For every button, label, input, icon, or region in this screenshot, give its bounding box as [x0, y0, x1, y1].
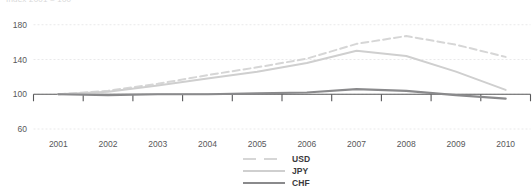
x-axis-tick-label: 2006: [297, 139, 316, 149]
x-axis-tick-label: 2001: [49, 139, 68, 149]
legend-label: JPY: [292, 166, 308, 176]
y-axis-tick-label: 140: [13, 55, 27, 65]
y-axis-tick-labels: 60100140180: [13, 20, 27, 134]
y-axis-tick-label: 60: [18, 124, 28, 134]
y-axis-tick-label: 100: [13, 89, 27, 99]
x-axis-tick-label: 2007: [347, 139, 366, 149]
legend-label: USD: [292, 154, 310, 164]
legend-item-usd[interactable]: USD: [243, 154, 310, 164]
x-axis-tick-label: 2003: [148, 139, 167, 149]
legend-item-chf[interactable]: CHF: [243, 178, 310, 188]
x-axis-tick-label: 2010: [496, 139, 515, 149]
x-axis-tick-label: 2002: [99, 139, 118, 149]
y-axis-tick-label: 180: [13, 20, 27, 30]
gridlines: [34, 25, 531, 129]
chart-legend: USDJPYCHF: [243, 154, 310, 188]
x-axis-tick-labels: 2001200220032004200520062007200820092010: [49, 139, 515, 149]
legend-swatch-jpy: [243, 166, 285, 176]
x-axis-tick-label: 2009: [446, 139, 465, 149]
x-axis-tick-label: 2004: [198, 139, 217, 149]
legend-item-jpy[interactable]: JPY: [243, 166, 310, 176]
data-series-group: [58, 36, 505, 99]
chart-plot-area: 60100140180 2001200220032004200520062007…: [0, 0, 532, 150]
legend-swatch-usd: [243, 154, 285, 164]
legend-swatch-chf: [243, 178, 285, 188]
x-axis-tick-label: 2008: [397, 139, 416, 149]
x-axis-tick-label: 2005: [248, 139, 267, 149]
legend-label: CHF: [292, 178, 310, 188]
line-chart: Index 2001 = 100 60100140180 20012002200…: [0, 0, 532, 195]
